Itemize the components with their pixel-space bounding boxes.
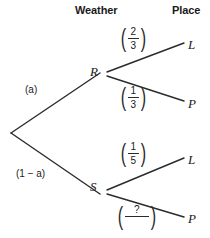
paren-open-icon: ( xyxy=(118,203,123,229)
edge-probability-r-to-l: ( 2 3 ) xyxy=(119,25,147,51)
probability-tree-diagram: Weather Place R S L P L P (a) (1 − a) ( … xyxy=(0,0,210,238)
paren-open-icon: ( xyxy=(121,84,126,110)
leaf-label-s-l: L xyxy=(188,152,195,168)
tree-branch-lines xyxy=(0,0,210,238)
paren-close-icon: ) xyxy=(150,203,155,229)
fraction-bar xyxy=(125,216,149,217)
fraction-two-thirds: 2 3 xyxy=(128,26,139,51)
fraction-bar xyxy=(128,97,139,98)
fraction-denominator: 3 xyxy=(129,40,137,51)
fraction-bar xyxy=(128,153,139,154)
fraction-numerator: 2 xyxy=(129,26,137,37)
fraction-denominator xyxy=(126,218,148,228)
paren-close-icon: ) xyxy=(140,25,145,51)
fraction-numerator: ? xyxy=(133,204,141,215)
fraction-bar xyxy=(128,38,139,39)
column-header-place: Place xyxy=(172,4,200,16)
edge-label-root-to-s: (1 − a) xyxy=(16,168,45,179)
branch-root-to-s xyxy=(11,133,100,194)
edge-label-root-to-r: (a) xyxy=(25,84,37,95)
leaf-label-r-p: P xyxy=(188,96,196,112)
edge-probability-s-to-p: ( ? ) xyxy=(116,203,157,229)
fraction-one-third: 1 3 xyxy=(128,85,139,110)
leaf-label-s-p: P xyxy=(188,211,196,227)
fraction-denominator: 5 xyxy=(129,155,137,166)
leaf-label-r-l: L xyxy=(188,37,195,53)
fraction-numerator: 1 xyxy=(129,85,137,96)
node-label-s: S xyxy=(90,179,97,195)
node-label-r: R xyxy=(90,64,98,80)
edge-probability-s-to-l: ( 1 5 ) xyxy=(119,140,147,166)
paren-close-icon: ) xyxy=(140,84,145,110)
branch-root-to-r xyxy=(11,73,100,133)
edge-probability-r-to-p: ( 1 3 ) xyxy=(119,84,147,110)
paren-close-icon: ) xyxy=(140,140,145,166)
column-header-weather: Weather xyxy=(75,4,118,16)
paren-open-icon: ( xyxy=(121,25,126,51)
fraction-one-fifth: 1 5 xyxy=(128,141,139,166)
fraction-denominator: 3 xyxy=(129,99,137,110)
fraction-unknown: ? xyxy=(125,204,149,228)
fraction-numerator: 1 xyxy=(129,141,137,152)
paren-open-icon: ( xyxy=(121,140,126,166)
